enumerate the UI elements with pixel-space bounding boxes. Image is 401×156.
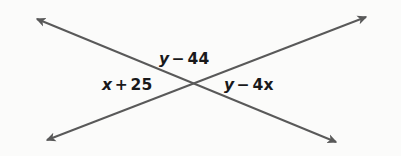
angle-label-left-variable: x xyxy=(102,76,112,94)
angle-label-left-operator: + xyxy=(112,76,130,94)
angle-label-top-operator: − xyxy=(169,50,187,68)
angle-label-top-variable: y xyxy=(159,50,169,68)
angle-label-right-operator: − xyxy=(234,76,252,94)
angle-label-top: y−44 xyxy=(159,52,209,68)
angle-label-right-term: 4x xyxy=(253,76,274,94)
line-sw-ne xyxy=(47,17,366,140)
angle-label-right: y−4x xyxy=(224,78,274,94)
intersecting-lines-diagram: y−44 x+25 y−4x xyxy=(0,0,401,156)
angle-label-top-term: 44 xyxy=(188,50,210,68)
diagram-canvas xyxy=(0,0,401,156)
angle-label-left: x+25 xyxy=(102,78,152,94)
line-nw-se xyxy=(37,19,336,142)
angle-label-left-term: 25 xyxy=(130,76,152,94)
angle-label-right-variable: y xyxy=(224,76,234,94)
